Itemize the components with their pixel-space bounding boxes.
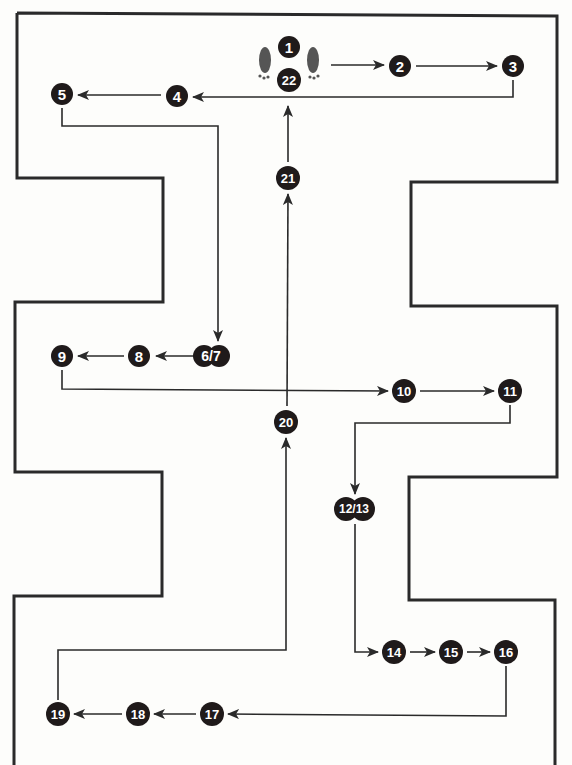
step-node-8: 8 xyxy=(128,345,150,367)
step-node-22: 22 xyxy=(277,68,301,92)
step-node-10: 10 xyxy=(392,379,416,403)
svg-text:4: 4 xyxy=(173,88,182,105)
svg-text:16: 16 xyxy=(499,645,513,660)
svg-text:8: 8 xyxy=(135,348,143,365)
svg-text:6/7: 6/7 xyxy=(201,348,221,364)
svg-text:12/13: 12/13 xyxy=(339,502,369,516)
svg-text:19: 19 xyxy=(51,707,65,722)
svg-text:11: 11 xyxy=(503,384,517,399)
step-node-17: 17 xyxy=(200,702,224,726)
svg-text:9: 9 xyxy=(58,348,66,365)
step-node-12-13: 12/13 xyxy=(334,497,375,521)
step-node-5: 5 xyxy=(51,83,73,105)
step-node-21: 21 xyxy=(276,166,300,190)
svg-text:2: 2 xyxy=(396,58,404,75)
step-node-1: 1 xyxy=(278,36,300,58)
step-node-11: 11 xyxy=(498,379,522,403)
step-node-2: 2 xyxy=(389,55,411,77)
path-diagram: 1 22 2 3 4 5 6/7 8 9 10 11 12/13 14 15 1… xyxy=(0,0,572,765)
route-lines xyxy=(58,65,513,716)
svg-text:15: 15 xyxy=(444,645,458,660)
step-node-6-7: 6/7 xyxy=(193,345,230,367)
svg-text:20: 20 xyxy=(279,415,293,430)
step-node-20: 20 xyxy=(274,410,298,434)
step-node-19: 19 xyxy=(46,702,70,726)
svg-text:22: 22 xyxy=(282,73,296,88)
svg-text:14: 14 xyxy=(387,645,402,660)
step-node-14: 14 xyxy=(382,640,406,664)
svg-text:17: 17 xyxy=(205,707,219,722)
step-node-4: 4 xyxy=(166,85,188,107)
svg-text:10: 10 xyxy=(397,384,411,399)
svg-text:1: 1 xyxy=(285,39,293,56)
svg-text:21: 21 xyxy=(281,171,295,186)
step-node-3: 3 xyxy=(502,55,524,77)
svg-text:18: 18 xyxy=(131,707,145,722)
step-node-15: 15 xyxy=(439,640,463,664)
svg-text:3: 3 xyxy=(509,58,517,75)
svg-text:5: 5 xyxy=(58,86,66,103)
step-node-18: 18 xyxy=(126,702,150,726)
step-node-9: 9 xyxy=(51,345,73,367)
step-node-16: 16 xyxy=(494,640,518,664)
